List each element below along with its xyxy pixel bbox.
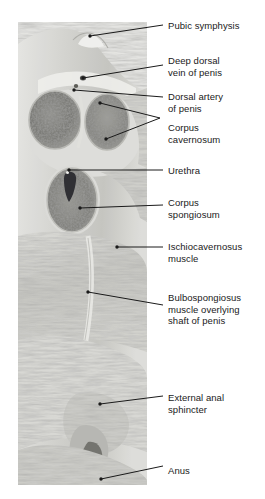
anatomy-figure: Pubic symphysis Deep dorsal vein of peni…: [0, 0, 265, 499]
specimen-photograph: [18, 22, 147, 485]
label-ischiocavernosus: Ischiocavernosus muscle: [168, 241, 242, 264]
label-deep-dorsal-vein: Deep dorsal vein of penis: [168, 55, 222, 78]
label-pubic-symphysis: Pubic symphysis: [168, 20, 240, 32]
label-urethra: Urethra: [168, 165, 200, 177]
label-bulbospongiosus: Bulbospongiosus muscle overlying shaft o…: [168, 292, 241, 327]
label-anus: Anus: [168, 465, 190, 477]
label-corpus-cavernosum: Corpus cavernosum: [168, 122, 220, 145]
label-dorsal-artery: Dorsal artery of penis: [168, 91, 223, 114]
label-corpus-spongiosum: Corpus spongiosum: [168, 197, 220, 220]
label-external-anal-sphincter: External anal sphincter: [168, 392, 224, 415]
